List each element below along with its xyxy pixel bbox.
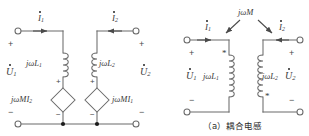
label-mutual-inductance: jωM (238, 8, 253, 17)
polarity-minus-u1-right: − (189, 96, 194, 105)
label-current-i2-left: I2 (112, 14, 118, 24)
label-inductor-L2-right: jωL2 (262, 72, 278, 82)
polarity-minus-src1: − (56, 111, 61, 119)
right-inductor-L1-coil (229, 55, 234, 97)
polarity-plus-u2-left: + (139, 40, 144, 49)
label-inductor-L1-right: jωL1 (203, 72, 219, 82)
dependent-source-2-diamond (85, 88, 109, 112)
left-inductor-L2-coil (92, 53, 97, 77)
junction-node-left-1 (61, 122, 65, 126)
polarity-plus-src1: + (56, 78, 61, 86)
terminal-right-bottom-2 (297, 109, 303, 115)
terminal-right-bottom-1 (184, 109, 190, 115)
coupling-dot-marker-L2: * (265, 92, 270, 101)
coupling-dot-marker-L1: * (222, 49, 227, 58)
polarity-plus-u1-right: + (189, 49, 194, 58)
label-voltage-u2-left: U2 (140, 67, 151, 78)
terminal-left-top-1 (15, 28, 21, 34)
mutual-arrow-right (258, 20, 272, 33)
label-dependent-source-2: jωMI1 (112, 95, 133, 105)
circuit-schematic-svg (0, 0, 309, 136)
label-current-i1-left: I1 (38, 14, 44, 24)
terminal-right-top-1 (184, 37, 190, 43)
polarity-plus-u1-left: + (8, 40, 13, 49)
polarity-plus-u2-right: + (289, 49, 294, 58)
figure-canvas: I1 I2 + − + − U1 U2 jωL1 jωL2 + − + − jω… (0, 0, 309, 136)
polarity-minus-u1-left: − (8, 108, 13, 117)
label-current-i2-right: I2 (279, 23, 285, 33)
left-inductor-L1-coil (63, 53, 68, 77)
polarity-minus-u2-left: − (139, 108, 144, 117)
polarity-plus-src2: + (90, 78, 95, 86)
terminal-right-top-2 (297, 37, 303, 43)
mutual-arrow-left (226, 20, 240, 33)
figure-caption: （a）耦合电感 (203, 122, 262, 131)
polarity-minus-u2-right: − (289, 96, 294, 105)
dependent-source-1-diamond (51, 88, 75, 112)
label-voltage-u1-left: U1 (6, 67, 17, 78)
label-current-i1-right: I1 (205, 23, 211, 33)
junction-node-left-2 (95, 122, 99, 126)
label-dependent-source-1: jωMI2 (11, 95, 32, 105)
terminal-left-top-2 (133, 28, 139, 34)
polarity-minus-src2: − (90, 111, 95, 119)
label-inductor-L1-left: jωL1 (26, 59, 42, 69)
label-inductor-L2-left: jωL2 (99, 59, 115, 69)
label-voltage-u1-right: U1 (186, 71, 197, 82)
terminal-left-bottom-1 (15, 121, 21, 127)
terminal-left-bottom-2 (133, 121, 139, 127)
label-voltage-u2-right: U2 (285, 71, 296, 82)
